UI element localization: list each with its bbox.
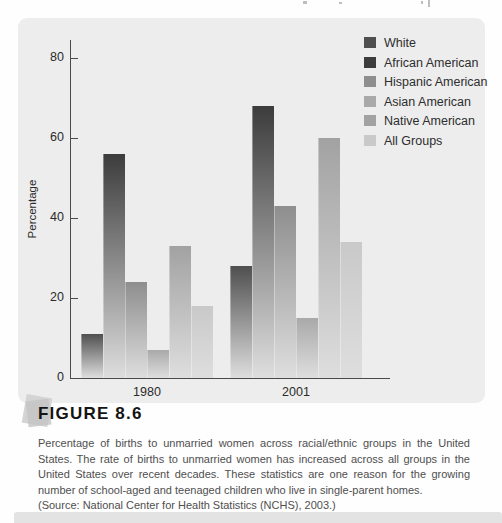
legend-item-african-american: African American	[364, 56, 494, 70]
bar-native-american-1980	[169, 246, 191, 378]
figure-source: (Source: National Center for Health Stat…	[38, 499, 478, 511]
bar-asian-american-2001	[296, 318, 318, 378]
figure-caption: Percentage of births to unmarried women …	[38, 436, 470, 498]
bar-white-2001	[230, 266, 252, 378]
y-tick-label-80: 80	[34, 50, 64, 64]
y-axis-line	[70, 40, 71, 379]
y-tick-label-60: 60	[34, 130, 64, 144]
page-edge-strip	[14, 512, 502, 523]
y-tick-label-20: 20	[34, 290, 64, 304]
legend-label-hispanic-american: Hispanic American	[384, 75, 488, 89]
bar-african-american-1980	[103, 154, 125, 378]
x-axis-line	[70, 378, 390, 379]
bar-hispanic-american-1980	[125, 282, 147, 378]
legend-swatch-african-american	[364, 57, 376, 68]
bar-african-american-2001	[252, 106, 274, 378]
legend-item-native-american: Native American	[364, 114, 494, 128]
y-tick-60	[70, 138, 78, 139]
figure-page: Percentage 02040608019802001WhiteAfrican…	[0, 0, 502, 523]
figure-label: FIGURE 8.6	[38, 404, 143, 424]
legend-item-hispanic-american: Hispanic American	[364, 75, 494, 89]
legend-label-native-american: Native American	[384, 114, 475, 128]
legend-swatch-all-groups	[364, 135, 376, 146]
legend-label-white: White	[384, 36, 416, 50]
legend-label-asian-american: Asian American	[384, 95, 471, 109]
legend-swatch-native-american	[364, 115, 376, 126]
legend-item-white: White	[364, 36, 494, 50]
legend-swatch-hispanic-american	[364, 76, 376, 87]
bar-all-groups-2001	[340, 242, 362, 378]
legend-label-african-american: African American	[384, 56, 478, 70]
bar-asian-american-1980	[147, 350, 169, 378]
x-category-label-1980: 1980	[117, 385, 177, 399]
x-category-label-2001: 2001	[266, 385, 326, 399]
legend-swatch-asian-american	[364, 96, 376, 107]
legend-item-all-groups: All Groups	[364, 134, 494, 148]
y-tick-20	[70, 298, 78, 299]
y-tick-40	[70, 218, 78, 219]
bar-white-1980	[81, 334, 103, 378]
y-tick-label-0: 0	[34, 370, 64, 384]
legend-swatch-white	[364, 37, 376, 48]
legend-item-asian-american: Asian American	[364, 95, 494, 109]
y-tick-80	[70, 58, 78, 59]
legend-label-all-groups: All Groups	[384, 134, 442, 148]
y-tick-label-40: 40	[34, 210, 64, 224]
bar-hispanic-american-2001	[274, 206, 296, 378]
y-axis-title: Percentage	[26, 159, 40, 259]
bar-native-american-2001	[318, 138, 340, 378]
bar-all-groups-1980	[191, 306, 213, 378]
